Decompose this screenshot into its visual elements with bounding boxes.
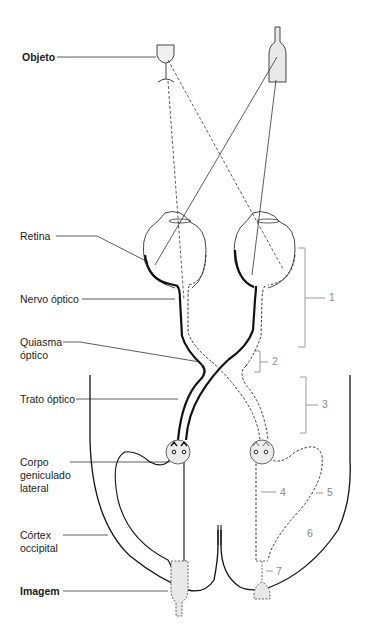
number-4: 4: [280, 486, 286, 498]
label-cortex-2: occipital: [20, 542, 58, 555]
brain-outline: [90, 375, 350, 591]
leader-lines: [56, 57, 200, 591]
optic-nerves: [177, 286, 265, 366]
label-optic-tract: Trato óptico: [20, 393, 75, 406]
number-6: 6: [307, 527, 313, 539]
label-image: Imagem: [20, 585, 60, 598]
bottle-icon: [269, 27, 286, 82]
number-7: 7: [276, 565, 282, 577]
label-object: Objeto: [22, 51, 55, 64]
label-cortex-1: Córtex: [20, 529, 51, 542]
bracket-3: [300, 377, 306, 433]
bracket-1: [298, 248, 305, 347]
right-eye: [234, 212, 295, 289]
number-3: 3: [322, 398, 328, 410]
label-optic-nerve: Nervo óptico: [20, 293, 79, 306]
retina-leader: [56, 236, 148, 262]
right-radiations: [256, 447, 322, 560]
number-1: 1: [329, 291, 335, 303]
lgn-left: [166, 440, 190, 464]
bracket-2: [254, 351, 260, 372]
image-glass-inverted: [254, 561, 270, 599]
label-lgn-2: geniculado: [20, 469, 71, 482]
chiasm-leader: [63, 342, 200, 362]
visual-pathway-diagram: [0, 0, 369, 634]
label-optic-chiasm-1: Quiasma: [20, 336, 62, 349]
label-lgn-1: Corpo: [20, 456, 49, 469]
wine-glass-icon: [157, 45, 174, 82]
label-optic-chiasm-2: óptico: [20, 349, 48, 362]
left-eye: [143, 212, 206, 289]
label-lgn-3: lateral: [20, 482, 49, 495]
left-radiations: [115, 452, 184, 578]
image-bottle-inverted: [171, 561, 188, 616]
brackets: [254, 248, 325, 571]
longitudinal-fissure: [218, 525, 221, 545]
light-rays: [155, 57, 283, 300]
number-5: 5: [327, 486, 333, 498]
lgn-right: [250, 440, 274, 464]
number-2: 2: [272, 355, 278, 367]
label-retina: Retina: [20, 230, 50, 243]
